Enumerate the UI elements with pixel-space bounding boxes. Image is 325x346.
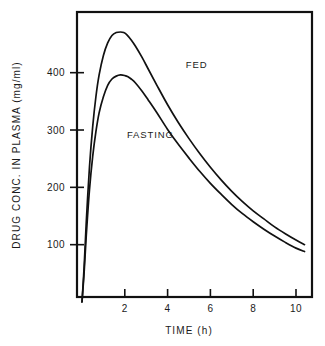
y-tick-label-300: 300: [47, 125, 65, 136]
x-axis-title: TIME (h): [165, 325, 213, 336]
plot-frame: [77, 12, 312, 297]
x-tick-label-10: 10: [290, 303, 302, 314]
y-axis-title: DRUG CONC. IN PLASMA (mg/ml): [11, 61, 22, 248]
series-line-fasting: [82, 75, 305, 302]
y-axis-tick-labels: 100200300400: [47, 67, 65, 250]
x-tick-label-4: 4: [165, 303, 171, 314]
x-axis-tick-labels: 246810: [122, 303, 302, 314]
axes-border: [77, 12, 312, 297]
series-annotation-fasting: FASTING: [127, 129, 174, 140]
y-tick-label-100: 100: [47, 239, 65, 250]
drug-concentration-line-chart: 100200300400 246810 FEDFASTING TIME (h) …: [0, 0, 325, 346]
x-tick-label-8: 8: [250, 303, 256, 314]
y-tick-label-400: 400: [47, 67, 65, 78]
data-series-group: [82, 32, 305, 302]
chart-figure: 100200300400 246810 FEDFASTING TIME (h) …: [0, 0, 325, 346]
x-tick-label-2: 2: [122, 303, 128, 314]
tick-marks: [70, 73, 296, 297]
x-tick-label-6: 6: [207, 303, 213, 314]
series-line-fed: [82, 32, 305, 302]
series-annotation-fed: FED: [186, 59, 208, 70]
y-tick-label-200: 200: [47, 182, 65, 193]
